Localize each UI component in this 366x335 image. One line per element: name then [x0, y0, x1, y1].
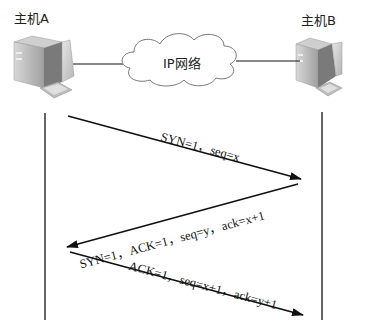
host-a-computer-icon: [14, 36, 74, 98]
host-a-label: 主机A: [14, 8, 49, 27]
network-label: IP网络: [163, 53, 201, 72]
host-b-computer-icon: [296, 38, 342, 96]
host-b-label: 主机B: [301, 10, 336, 29]
